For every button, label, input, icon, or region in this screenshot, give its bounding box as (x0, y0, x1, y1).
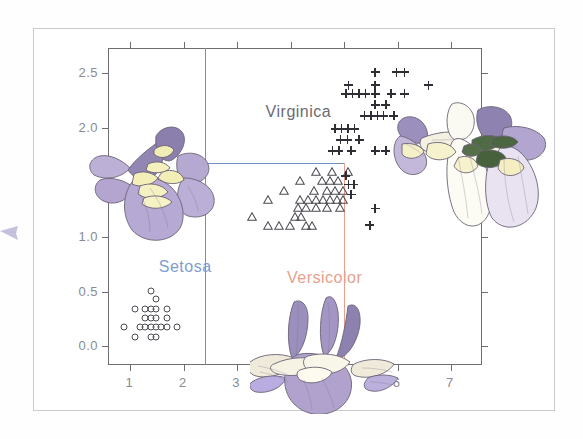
y-axis-tick-label: 2.0 (60, 119, 98, 134)
x-axis-tick (344, 364, 345, 371)
y-axis-tick (481, 292, 488, 293)
x-axis-tick-label: 4 (286, 375, 294, 390)
x-axis-tick-label: 1 (125, 375, 133, 390)
versicolor-virginica-top-boundary (205, 163, 344, 164)
y-axis-tick (481, 73, 488, 74)
class-label-versicolor: Versicolor (287, 269, 362, 287)
x-axis-tick (398, 42, 399, 49)
x-axis-tick (398, 364, 399, 371)
versicolor-right-boundary (344, 163, 345, 365)
x-axis-tick-label: 3 (232, 375, 240, 390)
x-axis-tick (291, 42, 292, 49)
y-axis-tick (481, 346, 488, 347)
x-axis-tick (451, 364, 452, 371)
scatter-plot-frame (108, 48, 482, 365)
y-axis-tick (102, 73, 109, 74)
y-axis-tick-label: 0.0 (60, 338, 98, 353)
x-axis-tick (344, 42, 345, 49)
x-axis-tick-label: 6 (393, 375, 401, 390)
y-axis-tick-label: 2.5 (60, 65, 98, 80)
x-axis-tick (184, 42, 185, 49)
x-axis-tick (184, 364, 185, 371)
y-axis-tick (102, 292, 109, 293)
x-axis-tick-label: 2 (179, 375, 187, 390)
class-label-setosa: Setosa (159, 258, 212, 276)
y-axis-tick (102, 128, 109, 129)
y-axis-tick-label: 1.0 (60, 229, 98, 244)
x-axis-tick (237, 364, 238, 371)
class-label-virginica: Virginica (266, 103, 332, 121)
y-axis-tick (102, 182, 109, 183)
x-axis-tick-label: 7 (446, 375, 454, 390)
x-axis-tick-label: 5 (339, 375, 347, 390)
figure-page: 12345670.00.51.02.02.5SetosaVirginicaVer… (0, 0, 583, 439)
y-axis-tick (481, 128, 488, 129)
x-axis-tick (130, 42, 131, 49)
y-axis-tick (481, 237, 488, 238)
x-axis-tick (237, 42, 238, 49)
x-axis-tick (451, 42, 452, 49)
x-axis-tick (291, 364, 292, 371)
x-axis-tick (130, 364, 131, 371)
y-axis-tick (102, 237, 109, 238)
setosa-versicolor-boundary (205, 48, 206, 365)
y-axis-tick (481, 182, 488, 183)
y-axis-tick (102, 346, 109, 347)
right-arrow-icon (0, 222, 26, 246)
y-axis-tick-label: 0.5 (60, 283, 98, 298)
